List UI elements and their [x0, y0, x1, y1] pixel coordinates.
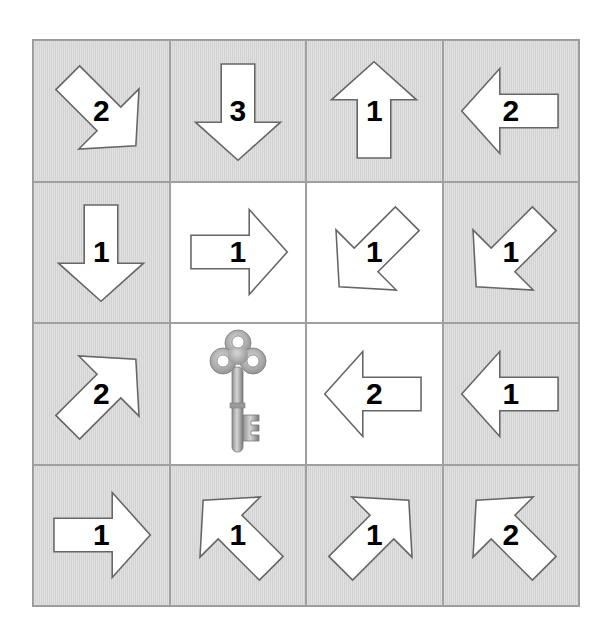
arrow-left-icon — [455, 338, 567, 450]
arrow-down-icon — [45, 196, 157, 308]
cell-r2-c1[interactable] — [170, 323, 307, 465]
cell-r0-c0[interactable]: 2 — [33, 40, 170, 182]
cell-r0-c1[interactable]: 3 — [170, 40, 307, 182]
cell-r3-c2[interactable]: 1 — [306, 465, 443, 607]
cell-r1-c0[interactable]: 1 — [33, 182, 170, 324]
arrow-down-icon — [182, 55, 294, 167]
arrow-up-left-icon — [432, 456, 590, 614]
arrow-up-right-icon — [295, 456, 453, 614]
cell-r2-c0[interactable]: 2 — [33, 323, 170, 465]
arrow-right-icon — [45, 479, 157, 591]
cell-r1-c3[interactable]: 1 — [443, 182, 580, 324]
arrow-up-icon — [318, 55, 430, 167]
puzzle-board: 2 3 1 2 1 1 1 — [32, 39, 580, 607]
arrow-left-icon — [455, 55, 567, 167]
arrow-left-icon — [318, 338, 430, 450]
cell-r1-c1[interactable]: 1 — [170, 182, 307, 324]
arrow-down-right-icon — [22, 32, 180, 190]
cell-r3-c0[interactable]: 1 — [33, 465, 170, 607]
cell-r3-c1[interactable]: 1 — [170, 465, 307, 607]
arrow-up-right-icon — [22, 315, 180, 473]
cell-r0-c2[interactable]: 1 — [306, 40, 443, 182]
key-icon — [203, 329, 273, 459]
cell-r2-c2[interactable]: 2 — [306, 323, 443, 465]
cell-r0-c3[interactable]: 2 — [443, 40, 580, 182]
arrow-down-left-icon — [295, 173, 453, 331]
cell-r3-c3[interactable]: 2 — [443, 465, 580, 607]
arrow-down-left-icon — [432, 173, 590, 331]
cell-r2-c3[interactable]: 1 — [443, 323, 580, 465]
arrow-right-icon — [182, 196, 294, 308]
arrow-up-left-icon — [159, 456, 317, 614]
cell-r1-c2[interactable]: 1 — [306, 182, 443, 324]
